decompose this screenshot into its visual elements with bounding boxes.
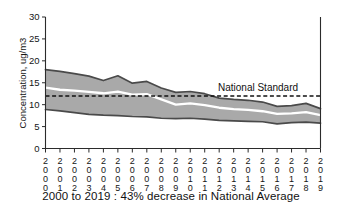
y-tick-labels: 051015202530 [29,11,40,154]
x-tick-label: 2012 [217,156,222,194]
x-tick-label: 2009 [173,156,178,194]
y-tick-label: 30 [29,11,40,22]
x-tick-label: 2014 [246,156,251,194]
y-tick-label: 25 [29,33,40,44]
x-tick-label: 2016 [275,156,280,194]
x-tick-label: 2004 [101,156,106,194]
plot-area [46,70,321,124]
x-tick-label: 2007 [144,156,149,194]
y-tick-label: 5 [34,121,39,132]
x-tick-label: 2011 [202,156,207,194]
y-tick-label: 20 [29,55,40,66]
x-tick-labels: 2000200120022003200420052006200720082009… [43,156,323,194]
x-tick-label: 2008 [159,156,164,194]
x-tick-label: 2003 [86,156,91,194]
y-tick-label: 0 [34,143,39,154]
x-tick-marks [46,149,321,153]
national-standard-label: National Standard [218,82,298,93]
x-tick-label: 2018 [304,156,309,194]
pm25-trend-chart: 051015202530 200020012002200320042005200… [0,0,342,213]
y-axis-title: Concentration, ug/m3 [17,38,28,129]
x-tick-label: 2001 [57,156,62,194]
x-tick-label: 2015 [260,156,265,194]
x-tick-label: 2006 [130,156,135,194]
x-tick-label: 2017 [289,156,294,194]
x-tick-label: 2002 [72,156,77,194]
y-tick-label: 15 [29,77,40,88]
percentile-band-area [46,70,321,124]
chart-figure: 051015202530 200020012002200320042005200… [0,0,342,213]
x-tick-label: 2010 [188,156,193,194]
y-tick-label: 10 [29,99,40,110]
chart-caption: 2000 to 2019 : 43% decrease in National … [0,190,342,202]
x-tick-label: 2013 [231,156,236,194]
x-tick-label: 2000 [43,156,48,194]
x-tick-label: 2005 [115,156,120,194]
x-tick-label: 2019 [318,156,323,194]
